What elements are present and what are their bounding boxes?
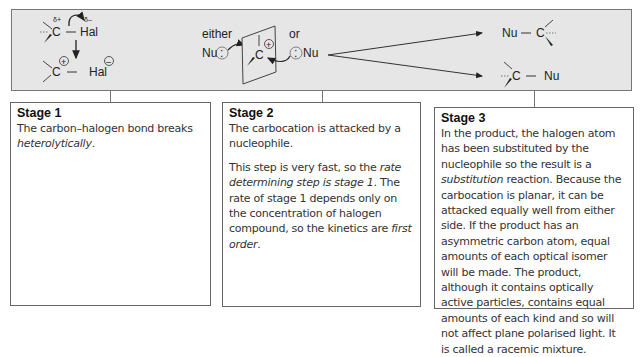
stage-paragraph: In the product, the halogen atom has bee… (441, 126, 627, 357)
stage1-reactant: C δ+ Hal δ– (40, 15, 98, 43)
stage3-title: Stage 3 (441, 111, 627, 126)
svg-text:Nu: Nu (202, 46, 217, 60)
arrow-to-product-top (328, 33, 482, 55)
svg-text:+: + (266, 40, 271, 50)
svg-text:Hal: Hal (89, 65, 107, 79)
stage-paragraph: This step is very fast, so the rate dete… (229, 160, 414, 252)
svg-text:Nu: Nu (303, 46, 318, 60)
reaction-mechanism-drawing: C δ+ Hal δ– C + Hal – either Nu : C + or… (0, 0, 642, 100)
connector-stage1 (110, 91, 111, 102)
svg-text::: : (220, 46, 223, 60)
stage3-products: Nu C C Nu (501, 20, 559, 88)
svg-text::: : (294, 46, 297, 60)
svg-text:or: or (289, 27, 300, 41)
stage3-text: In the product, the halogen atom has bee… (441, 126, 627, 357)
arrow-to-product-bottom (328, 55, 482, 76)
svg-text:C: C (52, 65, 61, 79)
svg-text:C: C (52, 25, 61, 39)
svg-text:–: – (106, 57, 111, 67)
svg-text:C: C (536, 26, 545, 40)
svg-text:Nu: Nu (544, 69, 559, 83)
svg-text:Nu: Nu (502, 26, 517, 40)
svg-text:C: C (255, 48, 264, 62)
svg-text:either: either (202, 27, 232, 41)
stage-paragraph: The carbocation is attacked by a nucleop… (229, 121, 414, 152)
stage3-box: Stage 3 In the product, the halogen atom… (434, 107, 634, 309)
connector-stage2 (322, 91, 323, 102)
stage2-title: Stage 2 (229, 106, 414, 121)
stage2-text: The carbocation is attacked by a nucleop… (229, 121, 414, 252)
stage1-box: Stage 1 The carbon–halogen bond breaks h… (10, 102, 211, 306)
stage-paragraph: The carbon–halogen bond breaks heterolyt… (17, 121, 204, 152)
svg-text:C: C (512, 69, 521, 83)
svg-text:δ–: δ– (84, 16, 92, 23)
svg-text:Hal: Hal (80, 25, 98, 39)
stage2-box: Stage 2 The carbocation is attacked by a… (222, 102, 421, 307)
stage1-text: The carbon–halogen bond breaks heterolyt… (17, 121, 204, 152)
stage2-attack: either Nu : C + or : Nu (202, 26, 318, 84)
svg-text:δ+: δ+ (53, 16, 61, 23)
connector-stage3 (534, 91, 535, 107)
stage1-product: C + Hal – (43, 57, 114, 83)
svg-text:+: + (61, 57, 66, 67)
stage1-title: Stage 1 (17, 106, 204, 121)
